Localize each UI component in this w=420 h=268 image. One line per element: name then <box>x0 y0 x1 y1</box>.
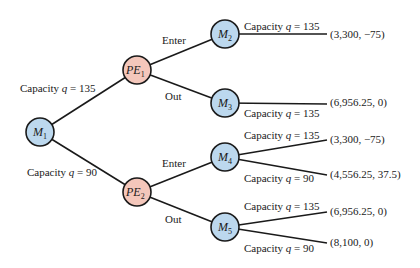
node-pe2: PE2 <box>123 178 151 206</box>
edge-label-m4-135: Capacity q = 135 <box>244 129 320 141</box>
payoff-m4-135: (3,300, −75) <box>330 133 385 146</box>
edge-label-m2: Capacity q = 135 <box>244 20 320 32</box>
payoff-m5-135: (6,956.25, 0) <box>330 205 387 218</box>
payoff-m3: (6,956.25, 0) <box>330 96 387 109</box>
edge-label-m5-135: Capacity q = 135 <box>244 200 320 212</box>
edge-label-enter-1: Enter <box>162 34 186 46</box>
edge-m3-terminal <box>225 103 327 104</box>
edge-m1-pe2 <box>40 132 137 192</box>
edge-m5-terminal-90 <box>225 227 327 243</box>
edge-label-m1-pe1: Capacity q = 135 <box>20 82 96 94</box>
game-tree: M1 PE1 PE2 M2 M3 M4 M5 Capacity q = 135 … <box>0 0 420 268</box>
edge-label-out-2: Out <box>165 213 182 225</box>
node-m4: M4 <box>211 143 239 171</box>
node-pe1: PE1 <box>123 56 151 84</box>
edge-label-enter-2: Enter <box>162 157 186 169</box>
payoff-m5-90: (8,100, 0) <box>330 236 373 249</box>
payoff-m2: (3,300, −75) <box>330 28 385 41</box>
edge-label-m4-90: Capacity q = 90 <box>244 172 315 184</box>
edge-m4-terminal-135 <box>225 140 327 157</box>
node-m1: M1 <box>26 118 54 146</box>
node-m2: M2 <box>211 20 239 48</box>
edge-label-m3: Capacity q = 135 <box>244 107 320 119</box>
payoff-m4-90: (4,556.25, 37.5) <box>330 168 401 181</box>
node-m5: M5 <box>211 213 239 241</box>
edge-m5-terminal-135 <box>225 212 327 227</box>
edge-label-out-1: Out <box>165 90 182 102</box>
edge-m1-pe1 <box>40 70 137 132</box>
node-m3: M3 <box>211 89 239 117</box>
edge-label-m5-90: Capacity q = 90 <box>244 242 315 254</box>
edge-label-m1-pe2: Capacity q = 90 <box>27 166 98 178</box>
